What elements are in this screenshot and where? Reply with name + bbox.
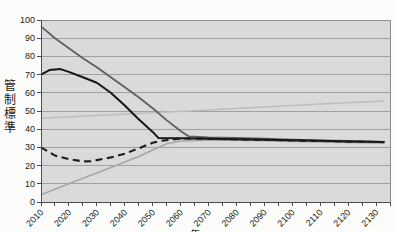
line-chart: 0102030405060708090100201020202030204020… [0,0,396,232]
y-axis-title-char-3: 標 [4,107,16,121]
y-axis-title-char-1: 管 [4,78,16,93]
y-tick-label-70: 70 [25,70,35,80]
y-tick-label-10: 10 [25,179,35,189]
y-tick-label-20: 20 [25,161,35,171]
y-tick-label-40: 40 [25,124,35,134]
x-axis-title: 年 [190,228,200,232]
y-tick-label-0: 0 [30,197,35,207]
y-tick-label-90: 90 [25,33,35,43]
y-tick-label-30: 30 [25,142,35,152]
line-chart-page: 0102030405060708090100201020202030204020… [0,0,396,232]
y-tick-label-100: 100 [20,15,35,25]
y-tick-label-80: 80 [25,51,35,61]
y-axis-title-char-2: 制 [4,93,16,107]
y-axis-title-char-4: 準 [4,120,16,135]
y-tick-label-50: 50 [25,106,35,116]
y-tick-label-60: 60 [25,88,35,98]
